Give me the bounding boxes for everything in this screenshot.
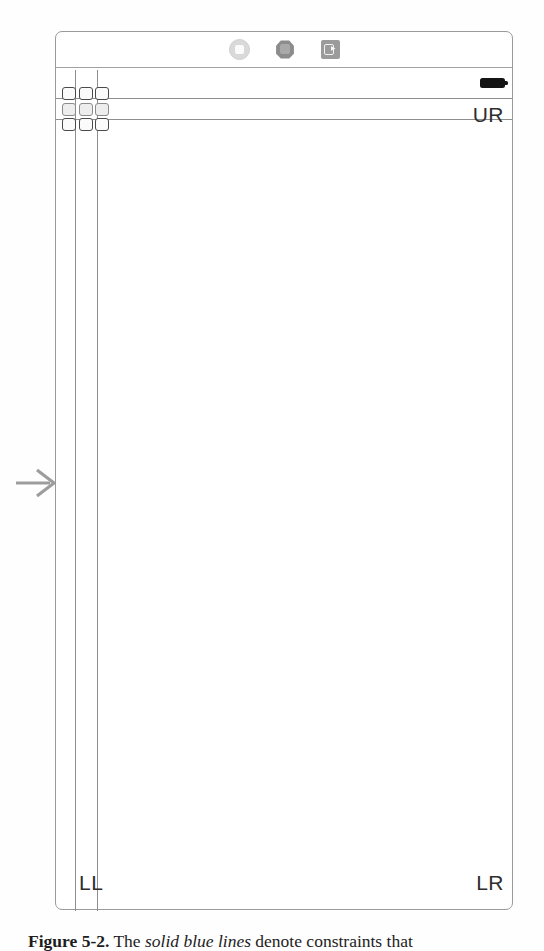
toolbar [56,32,512,68]
handle-r3c1[interactable] [62,118,76,131]
handle-grid[interactable] [62,87,110,131]
handle-r2c3[interactable] [95,103,109,116]
caption-label: Figure 5-2. [28,931,109,951]
caption-text-after: denote constraints that [251,931,413,951]
handle-r2c2[interactable] [79,103,93,116]
handle-r1c2[interactable] [79,87,93,100]
guide-rule-vertical-outer [75,70,76,911]
arrow-right-icon [14,466,58,500]
handle-r1c1[interactable] [62,87,76,100]
battery-icon [480,78,505,88]
corner-label-upper-right: UR [473,104,504,125]
handle-r1c3[interactable] [95,87,109,100]
corner-label-lower-left: LL [79,872,103,893]
device-frame: UR LR LL [55,31,513,910]
blob-icon[interactable] [276,40,295,59]
ring-icon[interactable] [229,39,250,60]
badge-icon[interactable] [321,40,340,59]
guide-rule-horizontal-upper [56,98,512,99]
caption-text-before: The [109,931,145,951]
caption-emphasis: solid blue lines [145,931,251,951]
handle-r3c2[interactable] [79,118,93,131]
figure-caption: Figure 5-2. The solid blue lines denote … [28,930,520,951]
corner-label-lower-right: LR [476,872,504,893]
handle-r2c1[interactable] [62,103,76,116]
guide-rule-horizontal-lower [56,119,512,120]
handle-r3c3[interactable] [95,118,109,131]
scanned-page: UR LR LL Figure 5-2. The solid blue line… [0,0,544,951]
guide-rule-vertical-inner [97,70,98,911]
